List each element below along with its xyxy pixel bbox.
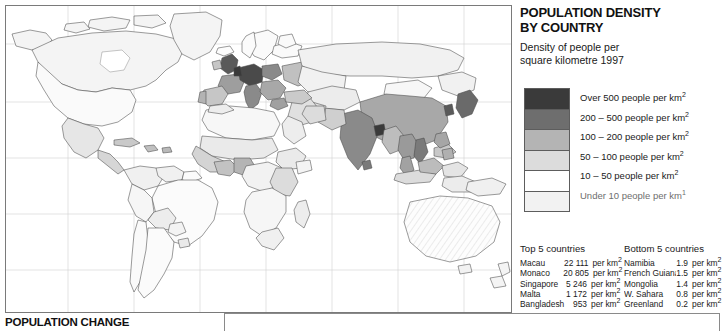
top5-unit-exponent-0: 2 — [618, 256, 622, 263]
legend-label-exponent-2: 2 — [685, 130, 689, 137]
world-map-panel[interactable] — [5, 5, 512, 313]
bottom5-row: French Guiana1.5per km2 — [624, 268, 722, 278]
legend-label-1: 200 – 500 people per km2 — [580, 108, 722, 128]
page-subtitle: Density of people per square kilometre 1… — [520, 41, 720, 67]
legend-label-text-1: 200 – 500 people per km — [580, 112, 685, 123]
legend-label-text-2: 100 – 200 people per km — [580, 131, 685, 142]
bottom5-value-1: 1.5 — [676, 268, 690, 278]
bottom5-unit-exponent-3: 2 — [718, 287, 722, 294]
bottom5-column: Namibia1.9per km2French Guiana1.5per km2… — [624, 258, 722, 309]
legend-label-3: 50 – 100 people per km2 — [580, 147, 722, 167]
top5-country-3: Malta — [520, 289, 566, 299]
bottom5-value-3: 0.8 — [676, 289, 690, 299]
top5-column: Macau22 111per km2Monaco20 805per km2Sin… — [520, 258, 624, 309]
legend-label-exponent-5: 1 — [682, 188, 686, 195]
legend-label-text-3: 50 – 100 people per km — [580, 151, 680, 162]
top5-unit-4: per km2 — [589, 299, 624, 309]
bottom5-country-4: Greenland — [624, 299, 676, 309]
legend-label-exponent-4: 2 — [675, 169, 679, 176]
top5-unit-exponent-2: 2 — [617, 277, 621, 284]
legend-swatch-5 — [525, 192, 569, 212]
legend-label-exponent-3: 2 — [680, 149, 684, 156]
top5-country-2: Singapore — [520, 279, 566, 289]
legend-label-column: Over 500 people per km2200 – 500 people … — [580, 88, 722, 205]
bottom5-country-2: Mongolia — [624, 279, 676, 289]
next-section-panel — [224, 313, 720, 331]
legend-swatch-1 — [525, 110, 569, 131]
top5-value-4: 953 — [566, 299, 589, 309]
legend-swatch-column — [524, 88, 570, 212]
bottom5-row: Namibia1.9per km2 — [624, 258, 722, 268]
title-line-2: BY COUNTRY — [520, 20, 603, 35]
bottom5-value-0: 1.9 — [676, 258, 690, 268]
legend-label-text-5: Under 10 people per km — [580, 190, 682, 201]
map-canvas[interactable] — [6, 6, 511, 312]
top5-value-1: 20 805 — [563, 268, 591, 278]
subtitle-line-1: Density of people per — [520, 41, 619, 53]
subtitle-line-2: square kilometre 1997 — [520, 54, 624, 66]
top5-value-2: 5 246 — [566, 279, 589, 289]
top5-country-0: Macau — [520, 258, 564, 268]
bottom5-header: Bottom 5 countries — [624, 243, 722, 254]
bottom5-unit-exponent-4: 2 — [718, 297, 722, 304]
bottom5-country-3: W. Sahara — [624, 289, 676, 299]
legend-label-exponent-0: 2 — [682, 91, 686, 98]
next-section-title: POPULATION CHANGE — [5, 316, 129, 328]
top5-row: Singapore5 246per km2 — [520, 279, 624, 289]
legend-label-text-0: Over 500 people per km — [580, 92, 682, 103]
top5-country-4: Bangladesh — [520, 299, 566, 309]
title-line-1: POPULATION DENSITY — [520, 5, 661, 20]
legend-swatch-3 — [525, 151, 569, 172]
top5-row: Monaco20 805per km2 — [520, 268, 624, 278]
map-header: POPULATION DENSITY BY COUNTRY Density of… — [520, 6, 720, 78]
legend-label-2: 100 – 200 people per km2 — [580, 127, 722, 147]
legend-label-exponent-1: 2 — [685, 110, 689, 117]
page-title: POPULATION DENSITY BY COUNTRY — [520, 6, 720, 35]
top5-unit-exponent-3: 2 — [617, 287, 621, 294]
top5-value-3: 1 172 — [566, 289, 589, 299]
bottom5-unit-exponent-2: 2 — [718, 277, 722, 284]
legend-swatch-0 — [525, 89, 569, 110]
legend-label-text-4: 10 – 50 people per km — [580, 170, 675, 181]
bottom5-row: Greenland0.2per km2 — [624, 299, 722, 309]
top5-unit-exponent-1: 2 — [619, 267, 623, 274]
statistics-headers: Top 5 countries Bottom 5 countries — [520, 243, 722, 254]
top5-row: Macau22 111per km2 — [520, 258, 624, 268]
top5-row: Malta1 172per km2 — [520, 289, 624, 299]
bottom5-row: W. Sahara0.8per km2 — [624, 289, 722, 299]
top5-row: Bangladesh953per km2 — [520, 299, 624, 309]
top5-unit-exponent-4: 2 — [617, 297, 621, 304]
legend-label-5: Under 10 people per km1 — [580, 186, 722, 206]
world-map-svg — [6, 6, 511, 312]
top5-country-1: Monaco — [520, 268, 563, 278]
bottom5-row: Mongolia1.4per km2 — [624, 279, 722, 289]
bottom5-value-4: 0.2 — [676, 299, 690, 309]
top5-header: Top 5 countries — [520, 243, 624, 254]
bottom5-unit-exponent-1: 2 — [718, 267, 722, 274]
legend-swatch-2 — [525, 130, 569, 151]
legend-label-0: Over 500 people per km2 — [580, 88, 722, 108]
bottom5-unit-exponent-0: 2 — [718, 256, 722, 263]
bottom5-country-1: French Guiana — [624, 268, 676, 278]
bottom5-value-2: 1.4 — [676, 279, 690, 289]
statistics-columns: Macau22 111per km2Monaco20 805per km2Sin… — [520, 258, 722, 309]
top5-value-0: 22 111 — [564, 258, 590, 268]
bottom5-country-0: Namibia — [624, 258, 676, 268]
legend-swatch-4 — [525, 171, 569, 192]
bottom5-unit-4: per km2 — [690, 299, 722, 309]
legend-label-4: 10 – 50 people per km2 — [580, 166, 722, 186]
